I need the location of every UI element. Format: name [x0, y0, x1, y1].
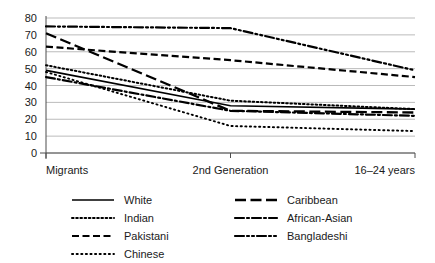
grid-lines — [46, 18, 415, 153]
legend-label: Chinese — [124, 248, 164, 260]
legend-label: African-Asian — [287, 212, 352, 224]
series-line-pakistani — [46, 47, 415, 77]
legend-item: African-Asian — [235, 212, 352, 224]
y-tick-label: 10 — [25, 130, 37, 142]
series-line-african-asian — [46, 77, 415, 116]
y-tick-label: 80 — [25, 12, 37, 24]
y-tick-label: 30 — [25, 96, 37, 108]
chart-container: 01020304050607080 Migrants2nd Generation… — [0, 0, 435, 263]
data-series-group — [46, 26, 415, 131]
y-tick-label: 0 — [31, 147, 37, 159]
line-chart: 01020304050607080 Migrants2nd Generation… — [0, 0, 435, 263]
legend-item: Caribbean — [235, 194, 338, 206]
y-tick-label: 20 — [25, 113, 37, 125]
x-tick-labels: Migrants2nd Generation16–24 years — [46, 164, 415, 176]
legend-item: Indian — [72, 212, 154, 224]
x-tick-label: 2nd Generation — [193, 164, 269, 176]
legend-label: Indian — [124, 212, 154, 224]
y-tick-label: 60 — [25, 46, 37, 58]
legend-item: White — [72, 194, 152, 206]
legend-label: Pakistani — [124, 230, 169, 242]
legend-item: Pakistani — [72, 230, 169, 242]
x-tick-label: 16–24 years — [354, 164, 415, 176]
y-tick-label: 70 — [25, 29, 37, 41]
series-line-bangladeshi — [46, 26, 415, 70]
legend-label: White — [124, 194, 152, 206]
legend-item: Bangladeshi — [235, 230, 348, 242]
legend-item: Chinese — [72, 248, 164, 260]
y-tick-label: 40 — [25, 80, 37, 92]
series-line-caribbean — [46, 33, 415, 112]
x-tick-label: Migrants — [46, 164, 89, 176]
chart-legend: WhiteIndianPakistaniChineseCaribbeanAfri… — [72, 194, 352, 260]
y-tick-label: 50 — [25, 63, 37, 75]
legend-label: Caribbean — [287, 194, 338, 206]
y-tick-labels: 01020304050607080 — [25, 12, 37, 159]
legend-label: Bangladeshi — [287, 230, 348, 242]
x-axis — [40, 153, 415, 158]
